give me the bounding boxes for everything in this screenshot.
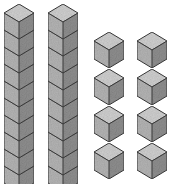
unit-cube-7 xyxy=(94,143,124,179)
stacked-cube xyxy=(4,4,34,39)
cube xyxy=(48,4,78,39)
unit-cube-3 xyxy=(94,69,124,105)
tower-left xyxy=(4,4,34,184)
cube xyxy=(94,106,124,142)
unit-cube-6 xyxy=(137,106,167,142)
cube xyxy=(94,32,124,68)
cube xyxy=(94,143,124,179)
unit-cube-8 xyxy=(137,143,167,179)
unit-cube-2 xyxy=(137,32,167,68)
cube xyxy=(4,4,34,39)
cube xyxy=(137,32,167,68)
cube xyxy=(137,69,167,105)
cube xyxy=(94,69,124,105)
cube xyxy=(137,106,167,142)
unit-cube-1 xyxy=(94,32,124,68)
tower-right xyxy=(48,4,78,184)
stacked-cube xyxy=(48,4,78,39)
block-diagram-canvas xyxy=(0,0,174,184)
unit-cube-5 xyxy=(94,106,124,142)
cube xyxy=(137,143,167,179)
unit-cube-grid xyxy=(94,32,167,179)
unit-cube-4 xyxy=(137,69,167,105)
